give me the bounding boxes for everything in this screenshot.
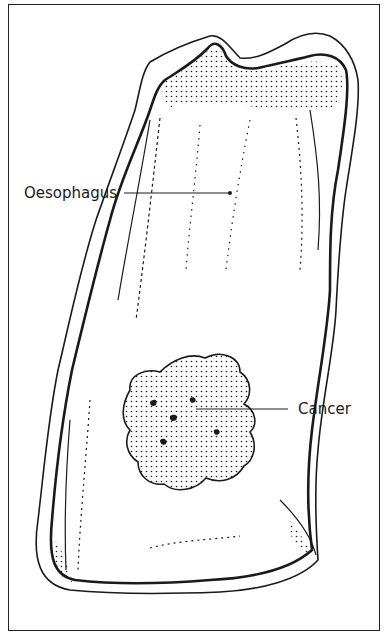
fold-lines bbox=[65, 110, 319, 570]
inner-outline bbox=[51, 44, 347, 583]
oesophagus-label: Oesophagus bbox=[24, 184, 117, 202]
cancer-lesion bbox=[123, 354, 255, 489]
oesophagus-illustration bbox=[0, 0, 387, 635]
outer-outline bbox=[36, 33, 358, 593]
cancer-label: Cancer bbox=[298, 400, 351, 418]
